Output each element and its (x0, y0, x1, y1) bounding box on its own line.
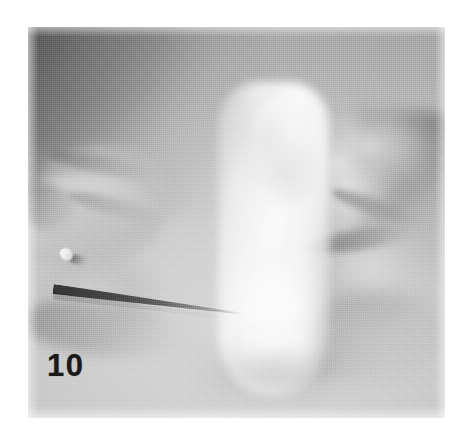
photograph-plate (28, 27, 445, 418)
plate-edge-fade (28, 27, 445, 418)
figure-number-label: 10 (47, 350, 84, 381)
figure-page: 10 (0, 0, 469, 435)
